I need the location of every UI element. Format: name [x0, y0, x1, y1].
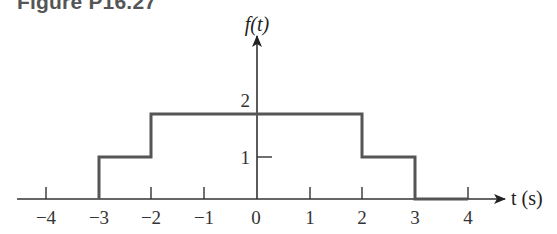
- svg-text:4: 4: [463, 207, 473, 228]
- svg-text:−4: −4: [36, 207, 57, 228]
- svg-text:3: 3: [410, 207, 420, 228]
- svg-text:1: 1: [241, 147, 251, 168]
- x-tick-labels: −4 −3 −2 −1 0 1 2 3 4: [36, 207, 473, 228]
- svg-text:2: 2: [241, 90, 251, 111]
- y-axis-label: f(t): [245, 13, 270, 36]
- svg-text:0: 0: [251, 207, 261, 228]
- svg-text:−2: −2: [141, 207, 161, 228]
- svg-text:−1: −1: [194, 207, 214, 228]
- step-function-plot: −4 −3 −2 −1 0 1 2 3 4 1 2 f(t) t (s): [0, 0, 557, 234]
- svg-text:1: 1: [305, 207, 315, 228]
- svg-text:2: 2: [357, 207, 367, 228]
- y-tick-labels: 1 2: [241, 90, 251, 168]
- x-axis-label: t (s): [511, 187, 543, 210]
- svg-text:−3: −3: [89, 207, 109, 228]
- f-t-series-line: [99, 114, 468, 199]
